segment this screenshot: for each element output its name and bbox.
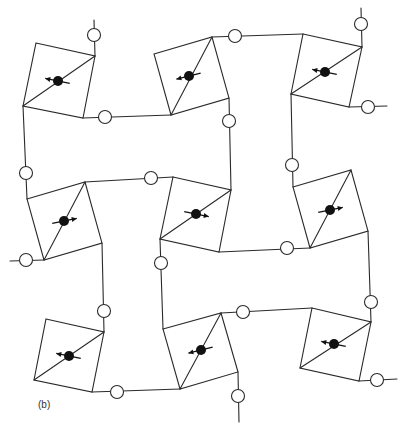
- open-node-icon: [365, 296, 378, 309]
- open-node-icon: [281, 242, 294, 255]
- open-node-icon: [229, 30, 242, 43]
- lattice-diagram: [0, 0, 404, 430]
- open-node-icon: [237, 306, 250, 319]
- open-node-icon: [155, 257, 168, 270]
- edge-line: [85, 177, 173, 182]
- spin-arrow-icon: [184, 209, 209, 219]
- spin-arrow-icon: [312, 67, 337, 77]
- filled-node-icon: [196, 345, 206, 355]
- spin-arrow-icon: [52, 216, 77, 226]
- open-node-icon: [99, 111, 112, 124]
- filled-node-icon: [329, 339, 339, 349]
- spin-arrow-icon: [56, 351, 81, 361]
- open-node-icon: [371, 374, 384, 387]
- filled-node-icon: [64, 351, 74, 361]
- edge-line: [102, 243, 104, 332]
- filled-node-icon: [325, 205, 335, 215]
- edge-line: [221, 308, 312, 313]
- spin-arrow-icon: [176, 71, 200, 81]
- edge-line: [92, 389, 180, 392]
- open-node-icon: [111, 386, 124, 399]
- open-node-icon: [362, 101, 375, 114]
- open-node-icon: [20, 167, 33, 180]
- open-node-icon: [232, 390, 245, 403]
- filled-node-icon: [184, 71, 194, 81]
- spin-arrow-icon: [45, 76, 70, 86]
- filled-node-icon: [320, 67, 330, 77]
- edge-line: [229, 98, 231, 190]
- open-node-icon: [145, 172, 158, 185]
- open-node-icon: [20, 254, 33, 267]
- edge-line: [83, 115, 171, 118]
- filled-node-icon: [59, 216, 69, 226]
- edge-line: [160, 239, 163, 329]
- open-node-icon: [286, 159, 299, 172]
- open-node-icon: [355, 18, 368, 31]
- open-node-icon: [223, 115, 236, 128]
- spin-arrow-icon: [188, 345, 212, 355]
- edge-line: [219, 248, 310, 252]
- filled-node-icon: [53, 76, 63, 86]
- spin-arrow-icon: [318, 205, 343, 215]
- filled-node-icon: [191, 209, 201, 219]
- open-node-icon: [88, 29, 101, 42]
- figure-label: (b): [38, 399, 50, 410]
- open-node-icon: [98, 305, 111, 318]
- edge-line: [23, 106, 27, 199]
- edge-line: [291, 94, 293, 187]
- edge-line: [212, 34, 303, 37]
